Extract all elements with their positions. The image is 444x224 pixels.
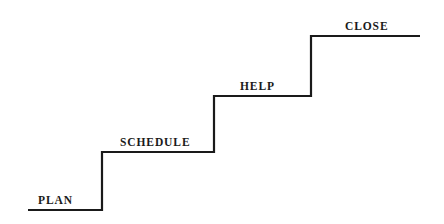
step-label-close: CLOSE <box>345 21 389 33</box>
step-label-help: HELP <box>240 81 275 93</box>
step-label-schedule: SCHEDULE <box>120 137 190 149</box>
step-label-plan: PLAN <box>38 195 73 207</box>
staircase-polyline <box>28 36 420 210</box>
staircase-path <box>0 0 444 224</box>
staircase-diagram: PLAN SCHEDULE HELP CLOSE <box>0 0 444 224</box>
